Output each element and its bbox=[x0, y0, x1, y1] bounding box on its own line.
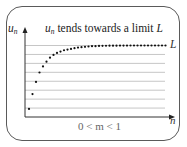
y-axis-label: un bbox=[8, 23, 18, 36]
data-point bbox=[35, 81, 37, 83]
data-point bbox=[143, 44, 145, 46]
data-point bbox=[52, 54, 54, 56]
data-point bbox=[73, 47, 75, 49]
data-point bbox=[38, 71, 40, 73]
data-point bbox=[147, 44, 149, 46]
data-point bbox=[28, 108, 30, 110]
data-point bbox=[80, 46, 82, 48]
data-point bbox=[126, 44, 128, 46]
x-axis-label: n bbox=[170, 115, 176, 126]
y-axis-arrow-icon bbox=[23, 27, 28, 33]
data-point bbox=[94, 45, 96, 47]
data-point bbox=[70, 48, 72, 50]
data-point bbox=[66, 48, 68, 50]
limit-label: L bbox=[170, 39, 176, 51]
data-point bbox=[115, 45, 117, 47]
data-point bbox=[136, 44, 138, 46]
data-point bbox=[150, 44, 152, 46]
data-point bbox=[31, 93, 33, 95]
data-point bbox=[77, 46, 79, 48]
data-point bbox=[91, 45, 93, 47]
data-point bbox=[108, 45, 110, 47]
data-point bbox=[49, 57, 51, 59]
axes bbox=[23, 27, 176, 120]
data-point bbox=[129, 44, 131, 46]
horizontal-gridlines bbox=[25, 46, 165, 109]
data-point bbox=[157, 44, 159, 46]
data-point bbox=[84, 46, 86, 48]
data-point bbox=[164, 44, 166, 46]
data-point bbox=[154, 44, 156, 46]
data-point bbox=[42, 65, 44, 67]
data-point bbox=[133, 44, 135, 46]
data-point bbox=[101, 45, 103, 47]
data-point bbox=[56, 52, 58, 54]
data-point bbox=[112, 45, 114, 47]
data-point bbox=[63, 49, 65, 51]
data-point bbox=[140, 44, 142, 46]
chart-title: un tends towards a limit L bbox=[45, 23, 163, 36]
data-point bbox=[59, 50, 61, 52]
data-point bbox=[119, 44, 121, 46]
data-point bbox=[45, 61, 47, 63]
data-point bbox=[161, 44, 163, 46]
data-point bbox=[98, 45, 100, 47]
data-point bbox=[122, 44, 124, 46]
data-point bbox=[105, 45, 107, 47]
condition-annotation: 0 < m < 1 bbox=[78, 121, 121, 132]
data-point bbox=[87, 45, 89, 47]
